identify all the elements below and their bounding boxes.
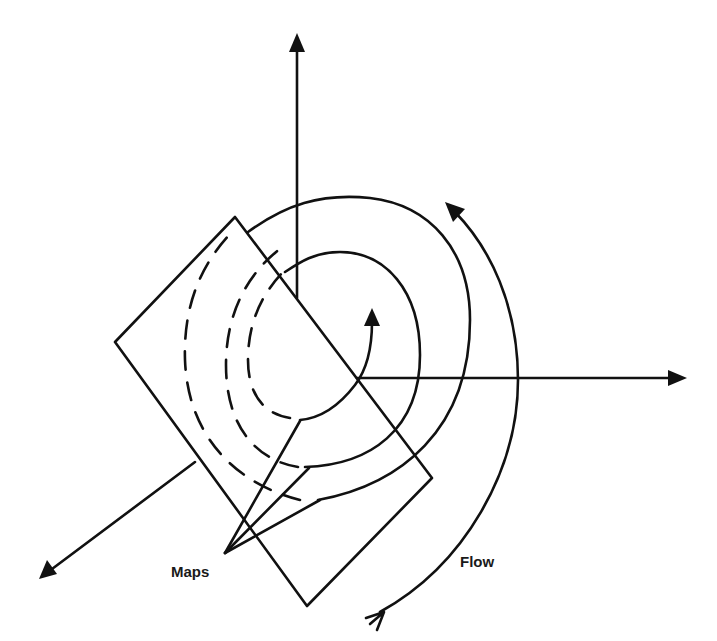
flow-label: Flow <box>460 553 494 570</box>
maps-pointers <box>225 421 320 553</box>
maps-label: Maps <box>171 563 209 580</box>
vertical-axis <box>289 33 305 298</box>
arrow-down-left-icon <box>39 560 57 579</box>
diagonal-axis <box>39 462 195 579</box>
outer-curve <box>185 197 470 500</box>
flow-curve <box>366 202 518 630</box>
arrow-up-icon <box>289 33 305 52</box>
arrow-up-small-icon <box>364 308 380 326</box>
arrow-tail-icon <box>366 612 384 630</box>
middle-curve <box>226 245 420 467</box>
diagram-canvas <box>0 0 717 641</box>
horizontal-axis <box>357 370 687 386</box>
inner-curve <box>248 270 380 420</box>
arrow-right-icon <box>668 370 687 386</box>
